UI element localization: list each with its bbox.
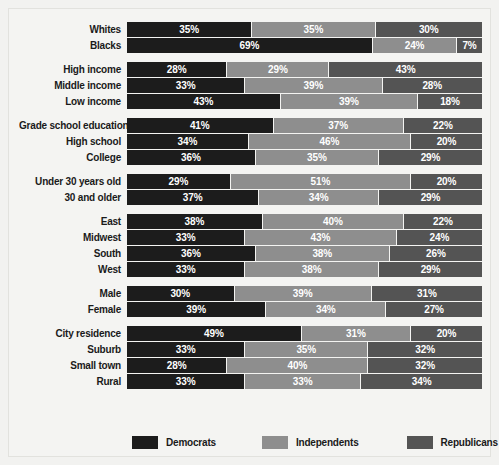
bar-row: Whites35%35%30% (19, 22, 482, 37)
bar-row-label: Rural (19, 374, 127, 389)
legend-item-republicans[interactable]: Republicans (407, 433, 498, 451)
legend-label: Republicans (441, 437, 498, 448)
bar-segment-democrats: 34% (127, 134, 248, 149)
bar-segment-republicans: 29% (379, 190, 482, 205)
bar-segment-independents: 38% (255, 246, 390, 261)
bar-group-gender: Male30%39%31%Female39%34%27% (19, 286, 482, 317)
bar-segment-republicans: 29% (379, 262, 482, 277)
bar-segment-independents: 24% (372, 38, 457, 53)
bar-segment-democrats: 30% (127, 286, 234, 301)
bar-row: Female39%34%27% (19, 302, 482, 317)
bar-segment-democrats: 29% (127, 174, 230, 189)
bar-segment-republicans: 29% (379, 150, 482, 165)
bar-group-education: Grade school education41%37%22%High scho… (19, 118, 482, 165)
bar-segment-democrats: 33% (127, 342, 244, 357)
bar-row: High income28%29%43% (19, 62, 482, 77)
bar-row-label: City residence (19, 326, 127, 341)
bar-row: South36%38%26% (19, 246, 482, 261)
stacked-bar: 41%37%22% (127, 118, 482, 133)
stacked-bar: 30%39%31% (127, 286, 482, 301)
stacked-bar: 43%39%18% (127, 94, 482, 109)
bar-group-race: Whites35%35%30%Blacks69%24%7% (19, 22, 482, 53)
bar-segment-republicans: 20% (411, 134, 482, 149)
bar-segment-independents: 39% (244, 78, 382, 93)
bar-row: East38%40%22% (19, 214, 482, 229)
bar-row: High school34%46%20% (19, 134, 482, 149)
legend-label: Independents (296, 437, 359, 448)
bar-group-age: Under 30 years old29%51%20%30 and older3… (19, 174, 482, 205)
bar-row-label: Whites (19, 22, 127, 37)
chart-panel: Whites35%35%30%Blacks69%24%7%High income… (0, 0, 499, 465)
bar-segment-independents: 40% (262, 214, 404, 229)
bar-row: Under 30 years old29%51%20% (19, 174, 482, 189)
bar-row-label: Blacks (19, 38, 127, 53)
stacked-bar-plot: Whites35%35%30%Blacks69%24%7%High income… (19, 22, 482, 422)
bar-segment-democrats: 33% (127, 78, 244, 93)
legend-item-democrats[interactable]: Democrats (132, 433, 216, 451)
bar-row: College36%35%29% (19, 150, 482, 165)
bar-segment-independents: 39% (234, 286, 372, 301)
bar-row-label: High income (19, 62, 127, 77)
stacked-bar: 69%24%7% (127, 38, 482, 53)
bar-row: Suburb33%35%32% (19, 342, 482, 357)
bar-segment-republicans: 20% (411, 326, 482, 341)
bar-segment-independents: 34% (258, 190, 379, 205)
bar-segment-republicans: 22% (404, 118, 482, 133)
bar-segment-democrats: 28% (127, 358, 226, 373)
bar-row-label: Male (19, 286, 127, 301)
bar-segment-democrats: 39% (127, 302, 265, 317)
legend-swatch-icon (262, 436, 288, 449)
stacked-bar: 34%46%20% (127, 134, 482, 149)
bar-row-label: Grade school education (19, 118, 127, 133)
bar-row-label: Low income (19, 94, 127, 109)
bar-segment-republicans: 31% (372, 286, 482, 301)
bar-row-label: South (19, 246, 127, 261)
bar-segment-republicans: 27% (386, 302, 482, 317)
bar-segment-democrats: 69% (127, 38, 372, 53)
bar-segment-republicans: 43% (329, 62, 482, 77)
bar-row-label: Female (19, 302, 127, 317)
stacked-bar: 28%29%43% (127, 62, 482, 77)
stacked-bar: 49%31%20% (127, 326, 482, 341)
bar-row: 30 and older37%34%29% (19, 190, 482, 205)
bar-segment-republicans: 32% (368, 358, 482, 373)
bar-segment-democrats: 37% (127, 190, 258, 205)
bar-row-label: Middle income (19, 78, 127, 93)
bar-segment-democrats: 28% (127, 62, 226, 77)
bar-row-label: Suburb (19, 342, 127, 357)
bar-group-residence: City residence49%31%20%Suburb33%35%32%Sm… (19, 326, 482, 389)
stacked-bar: 39%34%27% (127, 302, 482, 317)
bar-segment-independents: 40% (226, 358, 368, 373)
bar-row-label: West (19, 262, 127, 277)
bar-row: Low income43%39%18% (19, 94, 482, 109)
bar-group-income: High income28%29%43%Middle income33%39%2… (19, 62, 482, 109)
stacked-bar: 29%51%20% (127, 174, 482, 189)
bar-segment-democrats: 43% (127, 94, 280, 109)
bar-group-region: East38%40%22%Midwest33%43%24%South36%38%… (19, 214, 482, 277)
bar-row: Middle income33%39%28% (19, 78, 482, 93)
stacked-bar: 33%43%24% (127, 230, 482, 245)
bar-segment-independents: 35% (251, 22, 375, 37)
bar-segment-independents: 43% (244, 230, 397, 245)
bar-row: Blacks69%24%7% (19, 38, 482, 53)
bar-segment-republicans: 20% (411, 174, 482, 189)
bar-segment-republicans: 34% (361, 374, 482, 389)
bar-segment-democrats: 36% (127, 246, 255, 261)
bar-segment-republicans: 18% (418, 94, 482, 109)
bar-row-label: Midwest (19, 230, 127, 245)
bar-segment-democrats: 49% (127, 326, 301, 341)
stacked-bar: 38%40%22% (127, 214, 482, 229)
bar-row: Male30%39%31% (19, 286, 482, 301)
bar-segment-democrats: 33% (127, 374, 244, 389)
stacked-bar: 36%35%29% (127, 150, 482, 165)
bar-segment-democrats: 36% (127, 150, 255, 165)
bar-segment-democrats: 41% (127, 118, 273, 133)
bar-segment-republicans: 24% (397, 230, 482, 245)
bar-row: Small town28%40%32% (19, 358, 482, 373)
bar-segment-democrats: 33% (127, 262, 244, 277)
legend-item-independents[interactable]: Independents (262, 433, 359, 451)
bar-segment-independents: 38% (244, 262, 379, 277)
bar-row-label: College (19, 150, 127, 165)
legend-label: Democrats (166, 437, 216, 448)
stacked-bar: 33%35%32% (127, 342, 482, 357)
